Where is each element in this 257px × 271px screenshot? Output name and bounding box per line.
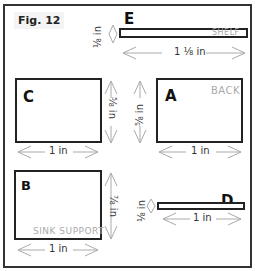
piece-c-letter: C [23,88,34,106]
piece-b-name: SINK SUPPORT [33,226,104,236]
piece-d [157,202,245,210]
piece-c-width: 1 in [49,145,68,156]
piece-a-width: 1 in [191,145,210,156]
piece-e-height-arrow-icon [108,24,118,44]
piece-a-height: ⅝ in [134,104,145,126]
piece-b-letter: B [21,178,31,193]
piece-b-width: 1 in [49,243,68,254]
piece-d-height-arrow-icon [146,198,156,214]
piece-e-width: 1 ⅛ in [174,46,206,57]
piece-c-height: ⅝ in [107,97,118,119]
piece-b-height: ⅞ in [108,195,119,217]
piece-a-name: BACK [211,85,240,96]
figure-label: Fig. 12 [14,12,64,29]
piece-d-width: 1 in [193,212,212,223]
piece-e-name: SHELF [212,28,240,37]
piece-e-letter: E [124,10,134,28]
piece-a-letter: A [165,87,177,105]
piece-e-height: ⅛ in [92,26,103,48]
piece-d-height: ⅛ in [136,200,147,222]
